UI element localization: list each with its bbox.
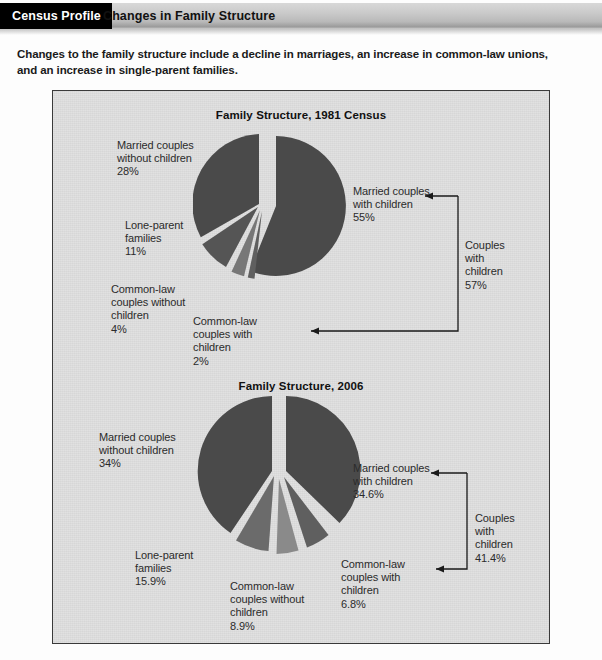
- label-couples-with-children-2006: Couples with children 41.4%: [475, 512, 550, 565]
- header-shadow: [0, 29, 602, 35]
- label-couples-with-children-1981: Couples with children 57%: [465, 239, 540, 292]
- label-married-with-children-2006: Married couples with children 34.6%: [353, 462, 463, 502]
- label-commonlaw-with-children-1981: Common-law couples with children 2%: [193, 315, 298, 368]
- slice-commonlaw-without-children-2006: [277, 479, 299, 554]
- figure-panel: Family Structure, 1981 Census Married co…: [52, 90, 550, 644]
- label-married-without-children-2006: Married couples without children 34%: [99, 431, 214, 471]
- label-married-with-children-1981: Married couples with children 55%: [353, 185, 463, 225]
- label-lone-parent-1981: Lone-parent families 11%: [125, 219, 220, 259]
- label-commonlaw-with-children-2006: Common-law couples with children 6.8%: [341, 558, 441, 611]
- label-commonlaw-without-children-2006: Common-law couples without children 8.9%: [230, 580, 340, 633]
- slice-married-with-children-1981: [250, 136, 346, 276]
- page-title-label: Changes in Family Structure: [103, 9, 275, 23]
- intro-paragraph: Changes to the family structure include …: [17, 46, 557, 78]
- label-married-without-children-1981: Married couples without children 28%: [117, 139, 227, 179]
- header-tab-census-profile[interactable]: Census Profile: [0, 3, 112, 29]
- page-title: Changes in Family Structure: [103, 3, 275, 29]
- label-lone-parent-2006: Lone-parent families 15.9%: [135, 549, 230, 589]
- header-tab-label: Census Profile: [12, 9, 101, 23]
